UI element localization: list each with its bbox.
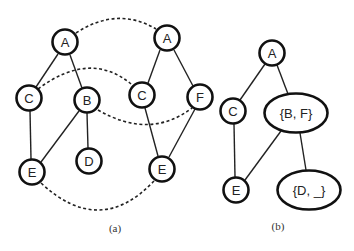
edge-a2-f2 bbox=[174, 50, 193, 86]
svg-text:A: A bbox=[163, 31, 172, 46]
caption-a: (a) bbox=[109, 222, 122, 235]
svg-text:A: A bbox=[61, 35, 70, 50]
edge-f2-e2 bbox=[169, 109, 195, 157]
edge-b-d bbox=[87, 113, 88, 148]
edge-a-b bbox=[70, 55, 82, 88]
edge-a2-c2 bbox=[148, 50, 160, 83]
node-e2: E bbox=[150, 157, 175, 182]
graph2-nodes: A C F E bbox=[130, 26, 213, 182]
edge-c2-e2 bbox=[145, 108, 158, 156]
svg-text:E: E bbox=[28, 165, 37, 180]
svg-text:A: A bbox=[268, 46, 277, 61]
node-e3: E bbox=[224, 178, 249, 203]
graph1-nodes: A C B E D bbox=[17, 30, 102, 185]
node-b: B bbox=[75, 88, 100, 113]
edge-c3-e3 bbox=[234, 124, 235, 177]
node-a3: A bbox=[260, 41, 285, 66]
node-a2: A bbox=[155, 26, 180, 51]
svg-text:{B, F}: {B, F} bbox=[280, 106, 313, 121]
caption-b: (b) bbox=[272, 220, 285, 233]
svg-text:E: E bbox=[232, 183, 241, 198]
node-a: A bbox=[53, 30, 78, 55]
node-f2: F bbox=[188, 85, 213, 110]
node-d-blank: {D, _} bbox=[278, 171, 341, 210]
svg-text:C: C bbox=[137, 88, 146, 103]
svg-text:C: C bbox=[228, 104, 237, 119]
node-e: E bbox=[20, 160, 45, 185]
node-d: D bbox=[77, 149, 102, 174]
edge-bf-e3 bbox=[245, 131, 281, 180]
svg-text:C: C bbox=[24, 91, 33, 106]
arc-c-c bbox=[38, 68, 131, 89]
node-bf: {B, F} bbox=[265, 94, 328, 133]
graph-matching-figure: A C B E D A C F bbox=[0, 0, 354, 251]
svg-text:D: D bbox=[84, 154, 93, 169]
merged-graph-nodes: A C {B, F} E {D, _} bbox=[221, 41, 341, 210]
arc-a-a bbox=[76, 18, 156, 33]
node-c3: C bbox=[221, 99, 246, 124]
edge-a3-c3 bbox=[240, 64, 265, 100]
edge-c-e bbox=[30, 111, 31, 159]
svg-text:{D, _}: {D, _} bbox=[293, 183, 326, 198]
node-c: C bbox=[17, 86, 42, 111]
svg-text:F: F bbox=[196, 90, 204, 105]
node-c2: C bbox=[130, 83, 155, 108]
arc-e-e bbox=[41, 181, 154, 210]
edge-bf-d bbox=[300, 133, 306, 170]
svg-text:E: E bbox=[158, 162, 167, 177]
edge-b-e bbox=[41, 111, 79, 162]
edge-a3-bf bbox=[277, 65, 288, 94]
svg-text:B: B bbox=[83, 93, 92, 108]
